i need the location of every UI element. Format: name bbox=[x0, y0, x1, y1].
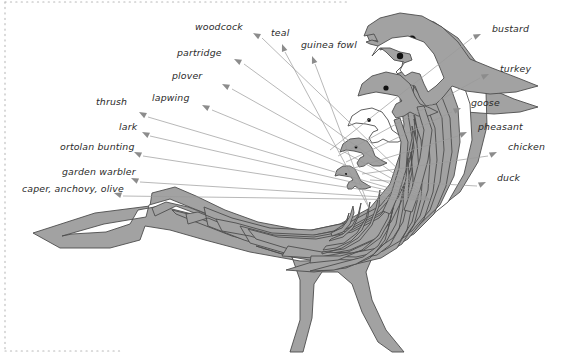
label-bustard: bustard bbox=[492, 23, 529, 34]
label-pheasant: pheasant bbox=[477, 121, 523, 132]
arrowhead-teal bbox=[282, 44, 287, 52]
label-guinea-fowl: guinea fowl bbox=[301, 39, 357, 50]
arrowhead-ortolan-bunting bbox=[134, 152, 142, 158]
label-lark: lark bbox=[119, 121, 138, 132]
goose-eye bbox=[383, 85, 388, 90]
leader-line-teal bbox=[285, 52, 370, 210]
label-ortolan-bunting: ortolan bunting bbox=[60, 141, 135, 152]
arrowhead-lark bbox=[142, 132, 150, 138]
label-lapwing: lapwing bbox=[152, 92, 190, 103]
arrowhead-partridge bbox=[234, 59, 242, 65]
arrowhead-lapwing bbox=[202, 105, 210, 111]
label-woodcock: woodcock bbox=[195, 21, 243, 32]
arrowhead-garden-warbler bbox=[131, 178, 139, 184]
label-plover: plover bbox=[171, 70, 203, 81]
label-goose: goose bbox=[471, 97, 500, 108]
labels-left-group: woodcockpartridgeploverlapwingthrushlark… bbox=[22, 21, 243, 194]
arrowhead-duck bbox=[478, 182, 486, 188]
leader-lines-top-group bbox=[282, 44, 370, 210]
label-thrush: thrush bbox=[96, 96, 127, 107]
arrowhead-guinea-fowl bbox=[312, 56, 317, 64]
nested-birds-diagram: woodcockpartridgeploverlapwingthrushlark… bbox=[0, 0, 562, 353]
figure-canvas: woodcockpartridgeploverlapwingthrushlark… bbox=[0, 0, 562, 353]
arrowhead-plover bbox=[222, 84, 230, 90]
leader-line-lark bbox=[150, 136, 430, 200]
turkey-eye bbox=[397, 53, 403, 59]
arrowhead-bustard bbox=[473, 34, 481, 40]
label-partridge: partridge bbox=[176, 47, 222, 58]
arrowhead-thrush bbox=[139, 112, 147, 118]
label-chicken: chicken bbox=[508, 141, 545, 152]
label-teal: teal bbox=[271, 27, 290, 38]
label-caper-anchovy-olive: caper, anchovy, olive bbox=[22, 183, 124, 194]
arrowhead-woodcock bbox=[253, 33, 261, 39]
label-turkey: turkey bbox=[500, 63, 531, 74]
label-duck: duck bbox=[497, 172, 520, 183]
arrowhead-chicken bbox=[489, 152, 497, 158]
label-garden-warbler: garden warbler bbox=[62, 166, 137, 177]
